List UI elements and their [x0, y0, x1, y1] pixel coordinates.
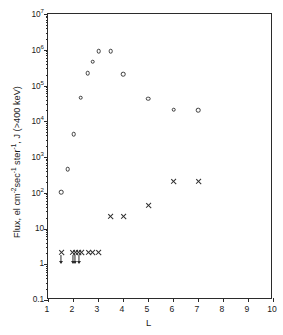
- y-axis-minor-tick: [46, 268, 49, 269]
- y-axis-tick-label: 106: [32, 43, 44, 55]
- y-axis-minor-tick: [46, 68, 49, 69]
- y-axis-minor-tick: [46, 87, 49, 88]
- y-axis-minor-tick: [46, 33, 49, 34]
- x-axis-tick-label: 3: [95, 304, 100, 314]
- x-axis-title-text: L: [146, 317, 151, 328]
- y-axis-minor-tick: [46, 211, 49, 212]
- y-axis-minor-tick: [46, 132, 49, 133]
- y-axis-minor-tick: [46, 140, 49, 141]
- data-point-circle: [85, 71, 90, 76]
- y-axis-minor-tick: [46, 55, 49, 56]
- y-axis-minor-tick: [46, 146, 49, 147]
- y-axis-minor-tick: [46, 53, 49, 54]
- y-axis-minor-tick: [46, 278, 49, 279]
- y-axis-minor-tick: [46, 64, 49, 65]
- data-point-circle: [121, 72, 126, 77]
- x-axis-tick-label: 10: [267, 304, 277, 314]
- data-point-cross: [95, 249, 102, 256]
- y-axis-minor-tick: [46, 234, 49, 235]
- data-point-cross: [170, 178, 177, 185]
- data-point-circle: [71, 132, 76, 137]
- x-axis-tick-labels: 12345678910: [47, 300, 272, 316]
- y-axis-minor-tick: [46, 196, 49, 197]
- figure-container: 1071061051041031021010.1 12345678910 Flu…: [0, 0, 283, 335]
- y-axis-minor-tick: [46, 25, 49, 26]
- y-axis-minor-tick: [46, 270, 49, 271]
- x-axis-tick-label: 7: [195, 304, 200, 314]
- y-axis-minor-tick: [46, 96, 49, 97]
- y-axis-tick-label: 104: [32, 114, 44, 126]
- y-axis-minor-tick: [46, 93, 49, 94]
- y-axis-minor-tick: [46, 289, 49, 290]
- y-axis-tick-label: 1: [39, 258, 44, 268]
- data-point-circle: [171, 107, 176, 112]
- data-point-circle: [78, 95, 83, 100]
- y-axis-minor-tick: [46, 91, 49, 92]
- y-axis-minor-tick: [46, 159, 49, 160]
- y-axis-minor-tick: [46, 163, 49, 164]
- x-axis-tick-label: 1: [45, 304, 50, 314]
- y-axis-minor-tick: [46, 243, 49, 244]
- y-axis-minor-tick: [46, 110, 49, 111]
- y-axis-minor-tick: [46, 135, 49, 136]
- data-point-circle: [96, 49, 101, 54]
- data-points-layer: [48, 14, 271, 298]
- y-axis-minor-tick: [46, 58, 49, 59]
- data-point-cross: [120, 213, 127, 220]
- y-axis-minor-tick: [46, 22, 49, 23]
- y-axis-title: Flux, el cm-2sec-1 ster-1, J (>400 keV): [10, 62, 22, 262]
- y-axis-minor-tick: [46, 266, 49, 267]
- y-axis-minor-tick: [46, 61, 49, 62]
- y-axis-minor-tick: [46, 230, 49, 231]
- y-axis-minor-tick: [46, 104, 49, 105]
- x-axis-title: L: [0, 317, 283, 328]
- y-axis-minor-tick: [46, 198, 49, 199]
- y-axis-minor-tick: [46, 100, 49, 101]
- x-axis-tick-label: 4: [120, 304, 125, 314]
- y-axis-minor-tick: [46, 171, 49, 172]
- x-axis-tick-label: 2: [70, 304, 75, 314]
- x-axis-tick-label: 5: [145, 304, 150, 314]
- y-axis-minor-tick: [46, 204, 49, 205]
- y-axis-minor-tick: [46, 207, 49, 208]
- y-axis-minor-tick: [46, 247, 49, 248]
- data-point-cross: [107, 213, 114, 220]
- data-point-cross: [145, 202, 152, 209]
- y-axis-minor-tick: [46, 165, 49, 166]
- plot-area: [47, 13, 272, 299]
- y-axis-minor-tick: [46, 275, 49, 276]
- y-axis-minor-tick: [46, 75, 49, 76]
- y-axis-minor-tick: [46, 89, 49, 90]
- data-point-circle: [65, 167, 70, 172]
- data-point-circle: [108, 49, 113, 54]
- y-axis-tick-label: 0.1: [33, 294, 44, 304]
- x-axis-tick-label: 6: [170, 304, 175, 314]
- y-axis-minor-tick: [46, 176, 49, 177]
- y-axis-minor-tick: [46, 160, 49, 161]
- y-axis-minor-tick: [46, 283, 49, 284]
- y-axis-minor-tick: [46, 129, 49, 130]
- y-axis-minor-tick: [46, 236, 49, 237]
- x-axis-tick: [273, 298, 274, 302]
- y-axis-minor-tick: [46, 17, 49, 18]
- y-axis-minor-tick: [46, 125, 49, 126]
- y-axis-minor-tick: [46, 127, 49, 128]
- y-axis-minor-tick: [46, 182, 49, 183]
- y-axis-minor-tick: [46, 218, 49, 219]
- y-axis-minor-tick: [46, 51, 49, 52]
- y-axis-tick-label: 105: [32, 79, 44, 91]
- y-axis-minor-tick: [46, 20, 49, 21]
- x-axis-tick-label: 9: [245, 304, 250, 314]
- y-axis-minor-tick: [46, 16, 49, 17]
- y-axis-tick-label: 107: [32, 7, 44, 19]
- y-axis-minor-tick: [46, 168, 49, 169]
- x-axis-tick-label: 8: [220, 304, 225, 314]
- y-axis-minor-tick: [46, 272, 49, 273]
- y-axis-minor-tick: [46, 253, 49, 254]
- data-point-circle: [59, 190, 64, 195]
- y-axis-tick-label: 10: [35, 223, 44, 233]
- y-axis-minor-tick: [46, 194, 49, 195]
- data-point-circle: [90, 60, 95, 65]
- data-point-circle: [146, 96, 151, 101]
- y-axis-minor-tick: [46, 28, 49, 29]
